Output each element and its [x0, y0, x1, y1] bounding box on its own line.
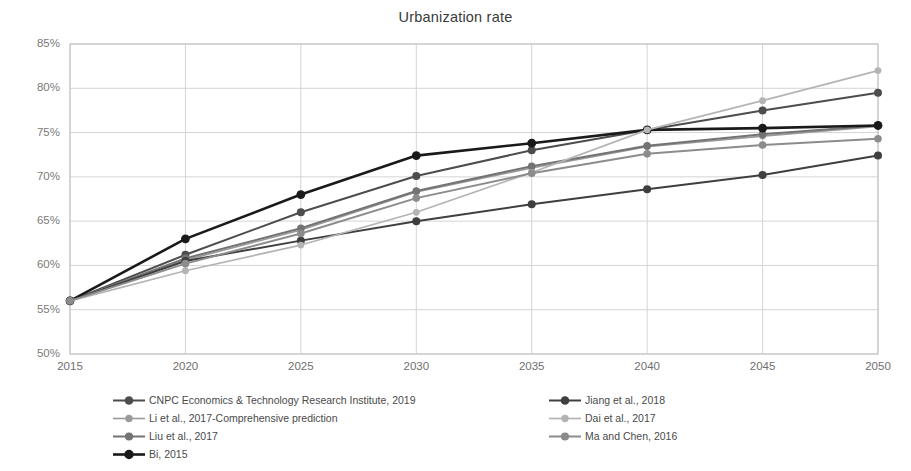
data-point-marker — [875, 67, 882, 74]
data-point-marker — [66, 297, 74, 305]
legend-marker-icon — [112, 449, 146, 460]
legend-label: Jiang et al., 2018 — [585, 395, 665, 406]
legend-marker-icon — [112, 413, 146, 424]
y-axis-tick-label: 80% — [14, 81, 60, 93]
data-point-marker — [874, 89, 882, 97]
y-axis-tick-label: 85% — [14, 37, 60, 49]
x-axis-tick-label: 2020 — [155, 360, 215, 372]
data-point-marker — [874, 121, 883, 130]
legend-label: Dai et al., 2017 — [585, 413, 656, 424]
series-line — [70, 156, 878, 301]
legend-marker-icon — [112, 431, 146, 442]
legend-item[interactable]: Ma and Chen, 2016 — [548, 428, 677, 445]
y-axis-tick-label: 65% — [14, 214, 60, 226]
data-point-marker — [527, 139, 536, 148]
x-axis-tick-label: 2035 — [502, 360, 562, 372]
x-axis-tick-label: 2050 — [848, 360, 908, 372]
data-point-marker — [528, 170, 536, 178]
data-point-marker — [874, 135, 882, 143]
legend-label: Bi, 2015 — [149, 449, 188, 460]
legend-item[interactable]: Liu et al., 2017 — [112, 428, 416, 445]
legend-marker-icon — [112, 395, 146, 406]
data-point-marker — [643, 142, 651, 150]
x-axis-tick-label: 2025 — [271, 360, 331, 372]
series-lines — [66, 67, 883, 305]
data-point-marker — [182, 260, 190, 268]
x-axis-tick-label: 2030 — [386, 360, 446, 372]
legend-label: Ma and Chen, 2016 — [585, 431, 677, 442]
legend-marker-icon — [548, 413, 582, 424]
data-point-marker — [759, 106, 767, 114]
data-point-marker — [296, 190, 305, 199]
y-axis-tick-label: 75% — [14, 126, 60, 138]
grid-lines — [70, 44, 878, 354]
legend-item[interactable]: Li et al., 2017-Comprehensive prediction — [112, 410, 416, 427]
data-point-marker — [297, 230, 305, 238]
legend-item[interactable]: Jiang et al., 2018 — [548, 392, 677, 409]
legend-item[interactable]: Dai et al., 2017 — [548, 410, 677, 427]
chart-container: Urbanization rate 85%80%75%70%65%60%55%5… — [0, 0, 911, 471]
y-axis-tick-label: 60% — [14, 258, 60, 270]
legend-item[interactable]: Bi, 2015 — [112, 446, 416, 463]
data-point-marker — [528, 162, 536, 170]
legend-label: Li et al., 2017-Comprehensive prediction — [149, 413, 338, 424]
y-axis-tick-label: 70% — [14, 170, 60, 182]
x-axis-tick-label: 2045 — [733, 360, 793, 372]
legend-label: Liu et al., 2017 — [149, 431, 218, 442]
legend-label: CNPC Economics & Technology Research Ins… — [149, 395, 416, 406]
data-point-marker — [412, 172, 420, 180]
legend-marker-icon — [548, 395, 582, 406]
y-axis-tick-label: 55% — [14, 303, 60, 315]
y-axis-tick-label: 50% — [14, 347, 60, 359]
chart-legend: CNPC Economics & Technology Research Ins… — [0, 392, 911, 464]
data-point-marker — [758, 124, 767, 133]
data-point-marker — [297, 242, 304, 249]
data-point-marker — [759, 97, 766, 104]
data-point-marker — [413, 209, 420, 216]
data-point-marker — [643, 150, 651, 158]
legend-column-left: CNPC Economics & Technology Research Ins… — [112, 392, 416, 464]
series-0 — [66, 89, 882, 305]
series-4 — [66, 152, 882, 305]
data-point-marker — [412, 217, 420, 225]
series-6 — [66, 135, 882, 305]
data-point-marker — [759, 171, 767, 179]
legend-marker-icon — [548, 431, 582, 442]
x-axis-tick-label: 2015 — [40, 360, 100, 372]
data-point-marker — [874, 152, 882, 160]
plot-frame — [70, 44, 878, 354]
legend-column-right: Jiang et al., 2018Dai et al., 2017Ma and… — [548, 392, 677, 446]
data-point-marker — [528, 200, 536, 208]
x-axis-tick-label: 2040 — [617, 360, 677, 372]
legend-item[interactable]: CNPC Economics & Technology Research Ins… — [112, 392, 416, 409]
data-point-marker — [181, 234, 190, 243]
data-point-marker — [643, 185, 651, 193]
data-point-marker — [412, 187, 420, 195]
data-point-marker — [412, 194, 420, 202]
data-point-marker — [759, 141, 767, 149]
data-point-marker — [182, 267, 189, 274]
data-point-marker — [412, 151, 421, 160]
data-point-marker — [297, 208, 305, 216]
data-point-marker — [644, 127, 651, 134]
